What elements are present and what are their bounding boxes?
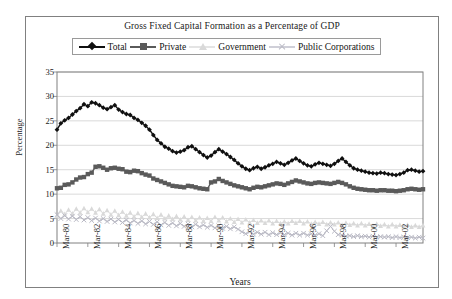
x-tick-label: Mar-02 (400, 224, 410, 249)
plot-area: 05101520253035 Mar-80Mar-82Mar-84Mar-86M… (0, 0, 452, 299)
x-axis-ticks: Mar-80Mar-82Mar-84Mar-86Mar-88Mar-90Mar-… (0, 0, 452, 299)
x-tick-label: Mar-92 (246, 224, 256, 249)
x-tick-label: Mar-82 (92, 224, 102, 249)
x-tick-label: Mar-88 (184, 224, 194, 249)
x-tick-label: Mar-80 (61, 224, 71, 249)
x-tick-label: Mar-98 (338, 224, 348, 249)
x-tick-label: Mar-00 (369, 224, 379, 249)
x-axis-label: Years (57, 277, 423, 287)
x-tick-label: Mar-94 (277, 224, 287, 249)
x-tick-label: Mar-96 (308, 224, 318, 249)
x-tick-label: Mar-84 (123, 224, 133, 249)
x-tick-label: Mar-90 (215, 224, 225, 249)
y-axis-label: Percentage (14, 102, 24, 172)
x-tick-label: Mar-86 (153, 224, 163, 249)
chart-figure: Gross Fixed Capital Formation as a Perce… (0, 0, 452, 299)
